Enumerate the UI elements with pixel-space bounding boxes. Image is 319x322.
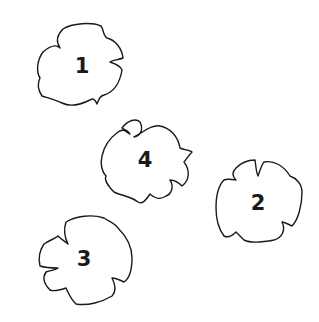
shape-4: 4 (101, 120, 192, 203)
shape-1-number: 1 (75, 54, 90, 78)
shape-2: 2 (216, 160, 302, 242)
shape-3-number: 3 (77, 247, 92, 271)
shape-2-number: 2 (251, 191, 266, 215)
shape-1: 1 (38, 24, 123, 106)
diagram-canvas: 1 4 2 3 (0, 0, 319, 322)
shape-4-number: 4 (138, 148, 153, 172)
shape-3: 3 (39, 216, 132, 305)
